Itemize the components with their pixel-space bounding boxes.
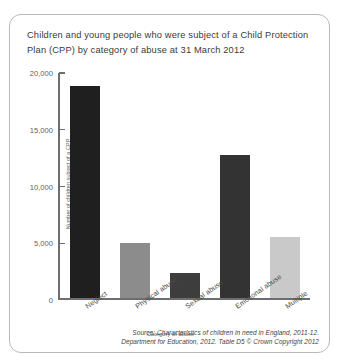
- y-tick-label: 15,000: [30, 125, 53, 134]
- chart-title: Children and young people who were subje…: [27, 28, 315, 57]
- source-line-1: Source: Characteristics of children in n…: [121, 328, 319, 337]
- bar-physical-abuse[interactable]: [120, 243, 150, 299]
- y-tick-label: 5,000: [34, 239, 53, 248]
- bar-neglect[interactable]: [70, 86, 100, 298]
- source-line-2: Department for Education, 2012. Table D5…: [121, 337, 319, 346]
- source-note: Source: Characteristics of children in n…: [121, 328, 319, 346]
- plot-area: 05,00010,00015,00020,000: [58, 73, 312, 300]
- figure-card: Children and young people who were subje…: [9, 14, 330, 353]
- bar-emotional-abuse[interactable]: [220, 155, 250, 298]
- bar-multiple[interactable]: [270, 237, 300, 298]
- y-tick-label: 20,000: [30, 69, 53, 78]
- bar-series: [60, 73, 310, 298]
- y-tick-label: 0: [49, 296, 53, 305]
- y-tick-label: 10,000: [30, 182, 53, 191]
